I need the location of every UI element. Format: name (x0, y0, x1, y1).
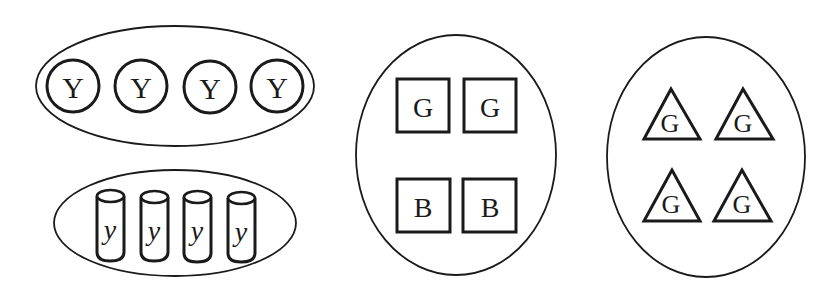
square-item: B (463, 179, 516, 232)
square-item: G (464, 79, 516, 132)
cylinder-item: y (184, 191, 211, 262)
square-group: G G B B (356, 35, 556, 275)
square-label: B (481, 192, 500, 223)
cylinder-top (141, 191, 168, 203)
circle-item: Y (184, 61, 236, 113)
circle-label: Y (62, 71, 84, 104)
square-item: B (397, 179, 450, 232)
cylinder-item: y (228, 192, 255, 262)
cylinder-item: y (97, 190, 124, 261)
triangle-group-ellipse (607, 37, 805, 277)
cylinder-label: y (101, 214, 117, 245)
triangle-item: G (644, 89, 700, 139)
square-label: B (414, 192, 433, 223)
triangle-group: G G G G (607, 37, 805, 277)
cylinder-label: y (145, 215, 161, 246)
square-group-ellipse (356, 35, 556, 275)
square-item: G (397, 79, 449, 132)
triangle-item: G (644, 170, 700, 221)
cylinder-item: y (141, 191, 168, 261)
cylinder-label: y (188, 215, 204, 246)
cylinder-top (184, 191, 211, 203)
circle-item: Y (47, 60, 99, 112)
diagram-canvas: Y Y Y Y y y y (0, 0, 836, 301)
square-label: G (480, 92, 500, 123)
triangle-label: G (661, 109, 680, 138)
cylinder-group: y y y y (54, 170, 296, 276)
triangle-label: G (734, 109, 753, 138)
circle-label: Y (130, 71, 152, 104)
circle-label: Y (266, 71, 288, 104)
circle-group: Y Y Y Y (36, 26, 314, 146)
triangle-item: G (714, 170, 771, 221)
square-label: G (413, 92, 433, 123)
cylinder-top (97, 190, 124, 202)
circle-label: Y (199, 72, 221, 105)
cylinder-label: y (232, 216, 248, 247)
circle-item: Y (115, 60, 167, 112)
cylinder-top (228, 192, 255, 204)
triangle-item: G (716, 89, 773, 139)
circle-item: Y (251, 60, 303, 112)
cylinder-group-ellipse (54, 170, 296, 276)
triangle-label: G (662, 190, 681, 219)
triangle-label: G (733, 190, 752, 219)
